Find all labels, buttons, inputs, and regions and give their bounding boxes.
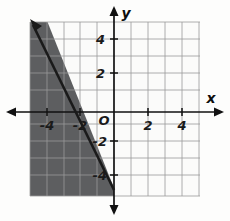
- x-tick-label-pos2: 2: [143, 118, 152, 133]
- x-axis-label: x: [205, 90, 216, 106]
- y-tick-label-neg4: -4: [93, 168, 107, 183]
- y-tick-label-pos4: 4: [95, 32, 105, 47]
- y-axis-down-arrow-icon: [110, 205, 119, 215]
- y-axis-label: y: [121, 5, 131, 21]
- origin-label: O: [98, 113, 109, 128]
- y-axis-up-arrow-icon: [110, 6, 119, 16]
- x-tick-label-pos4: 4: [176, 118, 186, 133]
- x-tick-label-neg2: -2: [73, 118, 87, 133]
- x-axis-right-arrow-icon: [214, 108, 224, 117]
- y-tick-label-neg2: -2: [93, 134, 107, 149]
- graph-canvas: -4 -2 2 4 4 2 -2 -4 O x y: [0, 0, 230, 221]
- x-tick-label-neg4: -4: [40, 118, 54, 133]
- y-tick-label-pos2: 2: [96, 66, 105, 81]
- x-axis-left-arrow-icon: [6, 108, 16, 117]
- coordinate-plane-figure: -4 -2 2 4 4 2 -2 -4 O x y: [0, 0, 230, 221]
